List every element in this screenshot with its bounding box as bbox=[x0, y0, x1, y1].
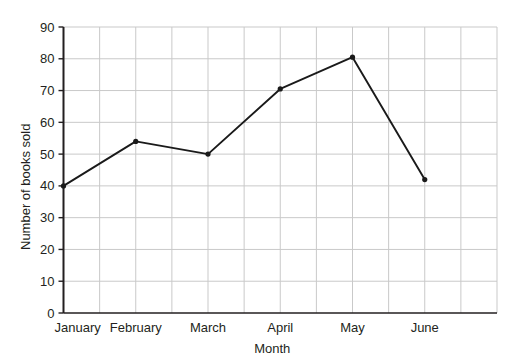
x-axis-tick-label: April bbox=[267, 320, 293, 335]
data-point bbox=[133, 139, 138, 144]
data-point bbox=[278, 86, 283, 91]
y-axis-tick-label: 90 bbox=[40, 20, 54, 35]
chart-background bbox=[0, 0, 511, 362]
x-axis-tick-label: June bbox=[411, 320, 439, 335]
x-axis-tick-label: February bbox=[110, 320, 163, 335]
x-axis-tick-label: January bbox=[55, 320, 102, 335]
y-axis-tick-label: 30 bbox=[40, 210, 54, 225]
y-axis-tick-label: 70 bbox=[40, 83, 54, 98]
y-axis-tick-label: 10 bbox=[40, 274, 54, 289]
x-axis-tick-label: May bbox=[340, 320, 365, 335]
y-axis-tick-label: 80 bbox=[40, 51, 54, 66]
x-axis-tick-label: March bbox=[190, 320, 226, 335]
x-axis-title: Month bbox=[254, 341, 290, 356]
line-chart: 0102030405060708090 JanuaryFebruaryMarch… bbox=[0, 0, 511, 362]
data-point bbox=[350, 55, 355, 60]
chart-canvas: 0102030405060708090 JanuaryFebruaryMarch… bbox=[0, 0, 511, 362]
y-axis-tick-label: 40 bbox=[40, 178, 54, 193]
data-point bbox=[61, 183, 66, 188]
y-axis-tick-label: 60 bbox=[40, 115, 54, 130]
y-axis-tick-label: 50 bbox=[40, 147, 54, 162]
y-axis-tick-label: 0 bbox=[47, 306, 54, 321]
y-axis-title: Number of books sold bbox=[18, 124, 33, 250]
data-point bbox=[205, 152, 210, 157]
data-point bbox=[422, 177, 427, 182]
y-axis-tick-label: 20 bbox=[40, 242, 54, 257]
